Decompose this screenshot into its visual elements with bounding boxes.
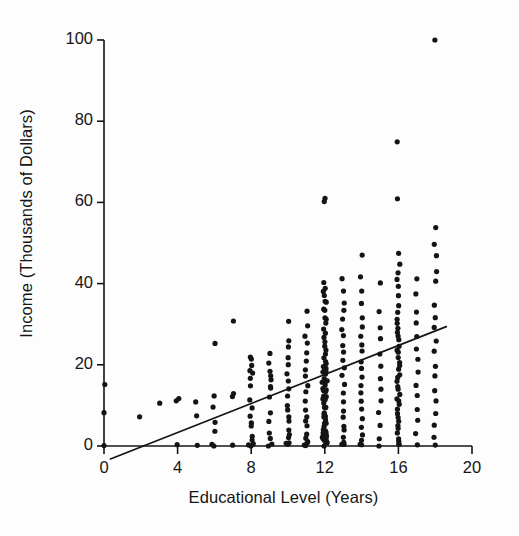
data-point xyxy=(285,393,290,398)
data-point xyxy=(432,325,437,330)
data-point xyxy=(342,300,347,305)
data-point xyxy=(433,364,438,369)
data-point xyxy=(268,410,273,415)
data-point xyxy=(286,344,291,349)
data-point xyxy=(284,371,289,376)
data-point xyxy=(269,441,274,446)
data-point xyxy=(414,276,419,281)
data-point xyxy=(248,355,253,360)
data-point xyxy=(395,407,400,412)
data-point xyxy=(378,387,383,392)
data-point xyxy=(321,326,326,331)
data-point xyxy=(303,367,308,372)
data-point xyxy=(395,139,400,144)
data-point xyxy=(194,413,199,418)
data-point xyxy=(358,274,363,279)
data-point xyxy=(195,443,200,448)
data-point xyxy=(359,301,364,306)
data-point xyxy=(378,376,383,381)
data-point xyxy=(268,384,273,389)
data-point xyxy=(341,333,346,338)
data-point xyxy=(395,317,400,322)
data-point xyxy=(339,276,344,281)
data-point xyxy=(360,432,365,437)
data-point xyxy=(358,390,363,395)
data-point xyxy=(231,391,236,396)
data-point xyxy=(285,403,290,408)
data-point xyxy=(433,225,438,230)
data-point xyxy=(415,442,420,447)
data-point xyxy=(360,416,365,421)
data-point xyxy=(246,442,251,447)
data-point xyxy=(341,390,346,395)
data-point xyxy=(432,349,437,354)
data-point xyxy=(358,383,363,388)
data-point xyxy=(305,341,310,346)
data-point xyxy=(231,318,236,323)
data-point xyxy=(376,443,381,448)
x-tick-label: 8 xyxy=(231,458,271,477)
regression-line xyxy=(110,327,446,459)
data-point xyxy=(396,355,401,360)
data-point xyxy=(341,349,346,354)
scatter-plot-figure: Income (Thousands of Dollars) Educationa… xyxy=(0,0,519,536)
data-point xyxy=(396,303,401,308)
y-tick-label: 20 xyxy=(49,354,93,373)
data-point xyxy=(397,262,402,267)
y-tick-label: 80 xyxy=(49,110,93,129)
data-point xyxy=(376,410,381,415)
figure-page: Income (Thousands of Dollars) Educationa… xyxy=(0,0,519,536)
data-point xyxy=(342,382,347,387)
data-point xyxy=(321,280,326,285)
data-point xyxy=(432,423,437,428)
data-point xyxy=(101,443,106,448)
data-point xyxy=(359,442,364,447)
data-point xyxy=(377,436,382,441)
data-point xyxy=(434,253,439,258)
data-point xyxy=(359,438,364,443)
data-point xyxy=(359,348,364,353)
data-point xyxy=(378,325,383,330)
data-point xyxy=(359,289,364,294)
data-point xyxy=(358,334,363,339)
data-point xyxy=(266,419,271,424)
x-tick-label: 0 xyxy=(84,458,124,477)
data-point xyxy=(176,396,181,401)
data-point xyxy=(339,327,344,332)
data-point xyxy=(304,309,309,314)
data-point xyxy=(137,414,142,419)
data-point xyxy=(322,339,327,344)
data-point xyxy=(360,253,365,258)
data-point xyxy=(266,361,271,366)
y-tick-label: 100 xyxy=(49,29,93,48)
data-point xyxy=(286,440,291,445)
data-point xyxy=(304,432,309,437)
data-point xyxy=(433,315,438,320)
data-point xyxy=(286,414,291,419)
data-point xyxy=(395,430,400,435)
data-point xyxy=(395,196,400,201)
data-point xyxy=(359,399,364,404)
data-point xyxy=(286,355,291,360)
data-point xyxy=(323,299,328,304)
y-tick-label: 60 xyxy=(49,191,93,210)
data-point xyxy=(413,291,418,296)
data-point xyxy=(432,303,437,308)
data-point xyxy=(395,411,400,416)
data-point xyxy=(341,288,346,293)
data-point xyxy=(268,373,273,378)
data-point xyxy=(341,408,346,413)
plot-canvas xyxy=(0,0,519,536)
data-point xyxy=(175,442,180,447)
data-point xyxy=(396,436,401,441)
data-point xyxy=(341,399,346,404)
data-point xyxy=(360,315,365,320)
data-point xyxy=(286,319,291,324)
data-point xyxy=(397,392,402,397)
data-point xyxy=(322,315,327,320)
data-point xyxy=(341,308,346,313)
data-point xyxy=(305,383,310,388)
data-point xyxy=(377,423,382,428)
data-point xyxy=(303,399,308,404)
data-point xyxy=(157,401,162,406)
